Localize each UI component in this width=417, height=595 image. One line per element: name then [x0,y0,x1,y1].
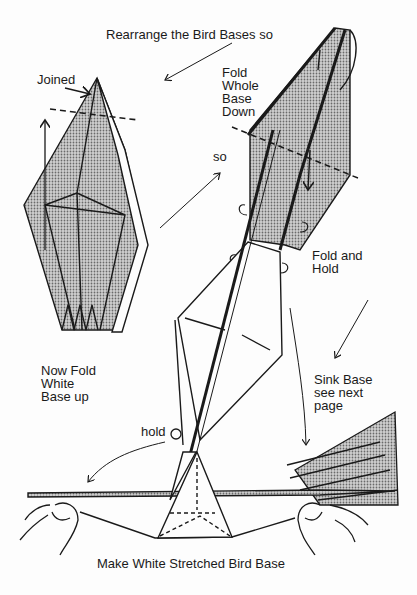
left-bird-base [24,78,148,332]
so-label: so [213,150,227,163]
so-arrow [160,173,220,228]
now-fold-white-base-up-label: Now Fold White Base up [41,364,96,403]
fold-and-hold-label: Fold and Hold [312,249,363,275]
joined-label: Joined [37,73,75,86]
fold-whole-base-down-label: Fold Whole Base Down [222,66,259,118]
sink-base-label: Sink Base see next page [314,373,373,412]
fold-and-hold-arrow [290,308,306,445]
hold-circle [171,429,181,439]
upper-shaded-base [248,28,356,250]
bottom-caption: Make White Stretched Bird Base [97,557,285,570]
right-hand [298,503,368,555]
joined-arrow [65,88,90,94]
left-hand [20,503,78,555]
hold-label: hold [141,425,166,438]
top-caption: Rearrange the Bird Bases so [106,28,273,41]
origami-diagram: Rearrange the Bird Bases so Joined Fold … [0,0,417,595]
sink-base-arrow [335,300,368,358]
fold-up-arrow [88,442,165,482]
diagram-drawing [0,0,417,595]
